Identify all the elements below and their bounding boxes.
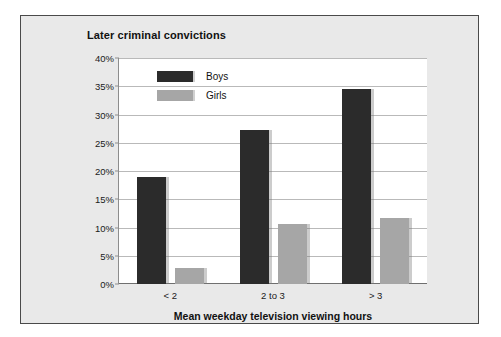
legend-item-boys: Boys bbox=[157, 67, 228, 86]
y-tick-label: 5% bbox=[100, 250, 114, 261]
y-tick-label: 20% bbox=[95, 166, 114, 177]
legend-item-girls: Girls bbox=[157, 86, 228, 105]
bar-boys-1 bbox=[240, 130, 269, 284]
y-tick-label: 0% bbox=[100, 279, 114, 290]
y-tick-label: 15% bbox=[95, 194, 114, 205]
y-tick-label: 35% bbox=[95, 81, 114, 92]
x-tick-label: 2 to 3 bbox=[261, 290, 285, 301]
legend-swatch-boys bbox=[157, 71, 193, 82]
x-axis-title: Mean weekday television viewing hours bbox=[119, 310, 427, 322]
legend-label-boys: Boys bbox=[206, 71, 228, 82]
y-tick-label: 30% bbox=[95, 109, 114, 120]
x-tick-label: < 2 bbox=[164, 290, 177, 301]
bar-boys-0 bbox=[137, 177, 166, 284]
figure-frame: Later criminal convictions 0%5%10%15%20%… bbox=[20, 15, 479, 324]
bar-girls-1 bbox=[278, 224, 307, 284]
bar-girls-0 bbox=[175, 268, 204, 284]
bar-girls-2 bbox=[380, 218, 409, 284]
plot-area: 0%5%10%15%20%25%30%35%40% < 22 to 3> 3 M… bbox=[118, 58, 427, 284]
y-tick-label: 40% bbox=[95, 53, 114, 64]
chart-legend: BoysGirls bbox=[157, 67, 228, 105]
chart-title: Later criminal convictions bbox=[87, 29, 226, 41]
legend-swatch-girls bbox=[157, 90, 193, 101]
y-tick-label: 25% bbox=[95, 137, 114, 148]
x-tick-label: > 3 bbox=[369, 290, 382, 301]
bar-boys-2 bbox=[342, 89, 371, 284]
y-tick-label: 10% bbox=[95, 222, 114, 233]
legend-label-girls: Girls bbox=[206, 90, 227, 101]
